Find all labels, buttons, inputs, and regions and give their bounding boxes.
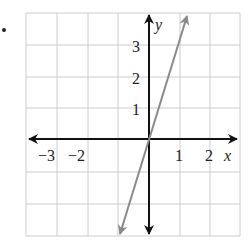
coordinate-plane: −3 −2 1 2 1 2 3 x y — [0, 0, 248, 249]
series-line-y-3x — [120, 16, 187, 234]
y-axis-label: y — [153, 16, 163, 34]
y-tick-label: 2 — [132, 70, 140, 87]
x-tick-label: −2 — [68, 147, 85, 164]
x-tick-label: 1 — [175, 147, 183, 164]
y-tick-label: 1 — [132, 101, 140, 118]
y-tick-label: 3 — [132, 38, 140, 55]
bullet-icon — [2, 28, 6, 32]
x-tick-label: −3 — [38, 147, 55, 164]
x-tick-label: 2 — [205, 147, 213, 164]
tick-labels: −3 −2 1 2 1 2 3 x y — [38, 16, 231, 164]
x-axis-label: x — [223, 147, 231, 164]
